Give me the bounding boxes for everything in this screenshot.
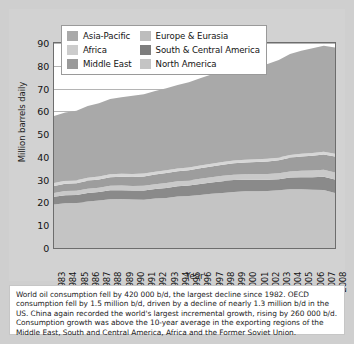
chart-legend: Asia-PacificEurope & EurasiaAfricaSouth … (61, 25, 267, 75)
legend-swatch-icon (67, 45, 78, 55)
plot-wrapper: Million barrels daily 908070605040302010… (9, 9, 345, 281)
legend-item[interactable]: Asia-Pacific (67, 29, 132, 43)
legend-item[interactable]: Africa (67, 43, 132, 57)
legend-item[interactable]: Europe & Eurasia (140, 29, 260, 43)
legend-swatch-icon (140, 31, 151, 41)
y-axis-tick-label: 80 (23, 60, 49, 71)
y-axis-tick-label: 70 (23, 83, 49, 94)
chart-card: Million barrels daily 908070605040302010… (9, 9, 345, 281)
legend-item-label: Europe & Eurasia (156, 31, 229, 41)
legend-item-label: Middle East (83, 59, 132, 69)
legend-swatch-icon (67, 31, 78, 41)
legend-item-label: South & Central America (156, 45, 260, 55)
y-axis-tick-label: 90 (23, 38, 49, 49)
legend-item[interactable]: South & Central America (140, 43, 260, 57)
y-axis-tick-label: 0 (23, 243, 49, 254)
y-axis-tick-label: 10 (23, 220, 49, 231)
y-axis-tick-label: 20 (23, 197, 49, 208)
y-axis-tick-label: 40 (23, 151, 49, 162)
legend-item-label: Africa (83, 45, 107, 55)
chart-caption: World oil consumption fell by 420 000 b/… (9, 285, 345, 335)
figure-container: Million barrels daily 908070605040302010… (0, 0, 354, 344)
y-axis-tick-labels: 9080706050403020100 (23, 9, 49, 249)
legend-item[interactable]: North America (140, 57, 260, 71)
legend-swatch-icon (67, 59, 78, 69)
legend-item[interactable]: Middle East (67, 57, 132, 71)
legend-swatch-icon (140, 59, 151, 69)
y-axis-tick-label: 50 (23, 129, 49, 140)
legend-item-label: North America (156, 59, 217, 69)
legend-swatch-icon (140, 45, 151, 55)
y-axis-tick-label: 60 (23, 106, 49, 117)
y-axis-tick-label: 30 (23, 174, 49, 185)
legend-item-label: Asia-Pacific (83, 31, 130, 41)
x-axis-title: Year (53, 271, 336, 281)
